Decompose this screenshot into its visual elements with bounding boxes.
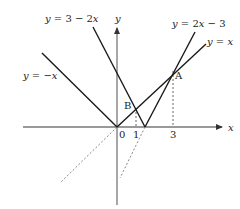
line-y-3-minus-2x: [93, 27, 145, 127]
label-y-2x-minus-3: y = 2x − 3: [171, 18, 226, 29]
tick-label-3: 3: [170, 129, 176, 140]
graph-canvas: y = 3 − 2x y = 2x − 3 y = x y = −x y x 0…: [0, 0, 240, 209]
y-axis-label: y: [114, 13, 121, 24]
line-y-2x-minus-3: [145, 32, 195, 127]
y-x-dashed-extension: [60, 127, 117, 183]
label-y-x: y = x: [206, 36, 233, 47]
point-label-a: A: [174, 70, 183, 81]
label-y-3-minus-2x: y = 3 − 2x: [44, 13, 99, 24]
tick-label-1: 1: [133, 129, 139, 140]
x-axis-label: x: [228, 122, 234, 133]
line-y-neg-x: [42, 53, 117, 127]
label-y-neg-x: y = −x: [22, 70, 58, 81]
origin-label: 0: [119, 129, 125, 140]
point-label-b: B: [124, 100, 131, 111]
line-y-x: [117, 44, 206, 127]
